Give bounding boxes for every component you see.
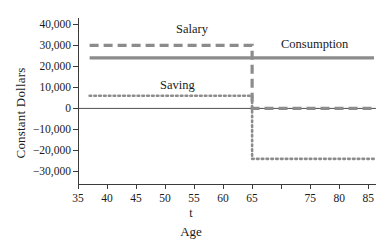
x-variable-label: t	[0, 206, 382, 221]
series-annotation-consumption: Consumption	[281, 37, 348, 52]
x-tick-label: 55	[188, 192, 200, 204]
series-annotation-salary: Salary	[176, 22, 208, 37]
y-tick-mark	[73, 150, 78, 151]
y-tick-mark	[73, 66, 78, 67]
y-tick-label: 30,000	[39, 39, 71, 51]
x-tick-label: 85	[362, 192, 374, 204]
y-tick-mark	[73, 45, 78, 46]
x-tick-mark	[368, 184, 369, 189]
x-tick-mark	[78, 184, 79, 189]
chart-figure: Constant Dollars t Age 40,00030,00020,00…	[0, 0, 382, 249]
x-tick-label: 35	[72, 192, 84, 204]
x-tick-mark	[252, 184, 253, 189]
x-tick-label: 60	[217, 192, 229, 204]
x-tick-mark	[223, 184, 224, 189]
x-axis-line	[78, 184, 376, 185]
y-tick-label: 20,000	[39, 60, 71, 72]
x-tick-mark	[136, 184, 137, 189]
y-tick-label: −30,000	[33, 165, 71, 177]
y-tick-label: −10,000	[33, 123, 71, 135]
y-tick-label: 40,000	[39, 18, 71, 30]
x-tick-mark	[194, 184, 195, 189]
y-tick-label: −20,000	[33, 144, 71, 156]
x-tick-label: 65	[246, 192, 258, 204]
y-tick-mark	[73, 171, 78, 172]
x-tick-label: 40	[101, 192, 113, 204]
x-tick-mark	[310, 184, 311, 189]
y-tick-mark	[73, 24, 78, 25]
y-tick-mark	[73, 108, 78, 109]
y-axis-title: Constant Dollars	[13, 28, 29, 198]
x-tick-mark	[281, 184, 282, 189]
x-tick-label: 75	[304, 192, 316, 204]
y-tick-mark	[73, 129, 78, 130]
x-tick-label: 50	[159, 192, 171, 204]
y-tick-label: 0	[65, 102, 71, 114]
y-tick-mark	[73, 87, 78, 88]
x-axis-title: Age	[0, 224, 382, 240]
x-tick-mark	[165, 184, 166, 189]
x-tick-label: 80	[333, 192, 345, 204]
x-tick-mark	[339, 184, 340, 189]
y-tick-label: 10,000	[39, 81, 71, 93]
series-annotation-saving: Saving	[160, 78, 195, 93]
x-tick-label: 45	[130, 192, 142, 204]
x-tick-mark	[107, 184, 108, 189]
